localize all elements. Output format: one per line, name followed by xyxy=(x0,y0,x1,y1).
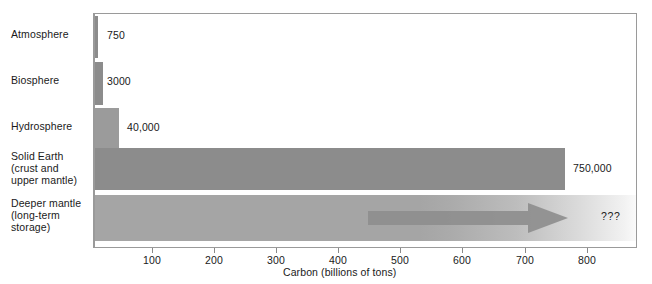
bar-hydrosphere xyxy=(95,108,119,148)
x-tick-label-800: 800 xyxy=(578,254,596,266)
value-label-deeper-mantle: ??? xyxy=(601,210,620,222)
bar-biosphere xyxy=(95,62,103,105)
x-tick-label-500: 500 xyxy=(391,254,409,266)
x-tick-label-300: 300 xyxy=(267,254,285,266)
x-tick-600 xyxy=(462,248,463,253)
x-tick-800 xyxy=(587,248,588,253)
category-label-biosphere: Biosphere xyxy=(11,74,91,86)
x-tick-label-400: 400 xyxy=(329,254,347,266)
value-label-hydrosphere: 40,000 xyxy=(127,121,160,133)
chart-row-atmosphere: Atmosphere 750 xyxy=(0,16,652,61)
x-tick-label-600: 600 xyxy=(453,254,471,266)
chart-row-hydrosphere: Hydrosphere 40,000 xyxy=(0,108,652,153)
x-tick-400 xyxy=(338,248,339,253)
chart-row-biosphere: Biosphere 3000 xyxy=(0,62,652,107)
x-axis: 100 200 300 400 500 600 700 800 xyxy=(93,248,637,268)
category-label-deeper-mantle: Deeper mantle (long-term storage) xyxy=(11,197,95,234)
x-tick-300 xyxy=(276,248,277,253)
x-tick-700 xyxy=(525,248,526,253)
value-label-atmosphere: 750 xyxy=(107,29,125,41)
chart-row-solid-earth: Solid Earth (crust and upper mantle) 750… xyxy=(0,148,652,194)
x-tick-100 xyxy=(152,248,153,253)
category-label-hydrosphere: Hydrosphere xyxy=(11,120,93,132)
bar-solid-earth xyxy=(95,148,565,190)
x-tick-label-700: 700 xyxy=(516,254,534,266)
chart-row-deeper-mantle: Deeper mantle (long-term storage) ??? xyxy=(0,195,652,245)
x-axis-title: Carbon (billions of tons) xyxy=(283,266,396,278)
carbon-reservoir-bar-chart: Atmosphere 750 Biosphere 3000 Hydrospher… xyxy=(0,0,652,284)
category-label-atmosphere: Atmosphere xyxy=(11,28,91,40)
x-tick-500 xyxy=(400,248,401,253)
x-tick-label-100: 100 xyxy=(143,254,161,266)
x-tick-label-200: 200 xyxy=(205,254,223,266)
value-label-solid-earth: 750,000 xyxy=(573,162,612,174)
value-label-biosphere: 3000 xyxy=(107,75,131,87)
bar-atmosphere xyxy=(95,16,98,58)
arrow-icon xyxy=(368,203,568,233)
x-tick-200 xyxy=(214,248,215,253)
category-label-solid-earth: Solid Earth (crust and upper mantle) xyxy=(11,150,93,187)
